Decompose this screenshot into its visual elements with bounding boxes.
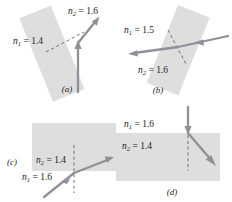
panel-a-caption: (a) [62,84,73,94]
panel-b-caption: (b) [153,85,164,95]
panel-a-label-n2: n2 = 1.6 [68,6,98,17]
panel-d-label-n1: n1 = 1.6 [124,119,154,130]
panel-a-label-n1: n1 = 1.4 [13,36,43,47]
panel-b: n1 = 1.5 n2 = 1.6 (b) [116,0,232,101]
panel-b-refracted-arrowhead [128,50,138,56]
panel-d-diagram: n1 = 1.6 n2 = 1.4 (d) [116,101,232,202]
refraction-figure: n1 = 1.4 n2 = 1.6 (a) n1 = 1.5 [0,0,232,202]
panel-a: n1 = 1.4 n2 = 1.6 (a) [0,0,116,101]
panel-c-label-n2: n2 = 1.4 [36,155,66,166]
panel-d-label-n2: n2 = 1.4 [122,141,152,152]
panel-c-caption: (c) [7,157,17,167]
panel-b-label-n1: n1 = 1.5 [124,25,154,36]
panel-a-diagram: n1 = 1.4 n2 = 1.6 (a) [0,0,116,101]
panel-c: n2 = 1.4 n1 = 1.6 (c) [0,101,116,202]
panel-d-caption: (d) [167,187,178,197]
panel-a-slab [19,5,84,101]
panel-a-refracted-ray [78,22,95,43]
panel-c-label-n1: n1 = 1.6 [22,172,52,183]
panel-b-diagram: n1 = 1.5 n2 = 1.6 (b) [116,0,232,101]
panel-c-diagram: n2 = 1.4 n1 = 1.6 (c) [0,101,116,202]
panel-b-label-n2: n2 = 1.6 [138,65,168,76]
panel-d: n1 = 1.6 n2 = 1.4 (d) [116,101,232,202]
